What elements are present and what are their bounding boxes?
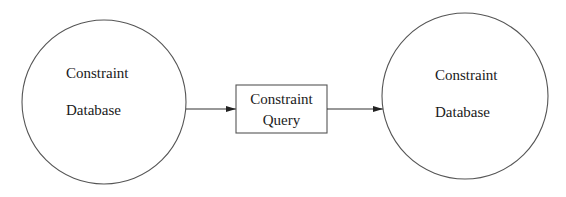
query-label-line2: Query (263, 112, 301, 128)
source-database-label-line1: Constraint (66, 65, 129, 81)
query-node: Constraint Query (236, 85, 327, 133)
result-database-label-line1: Constraint (435, 67, 498, 83)
constraint-query-diagram: Constraint Database Constraint Query Con… (0, 0, 566, 197)
result-database-circle (382, 13, 548, 179)
result-database-node: Constraint Database (382, 13, 548, 179)
query-label-line1: Constraint (250, 91, 313, 107)
source-database-label-line2: Database (66, 102, 121, 118)
result-database-label-line2: Database (435, 104, 490, 120)
source-database-node: Constraint Database (22, 20, 186, 184)
